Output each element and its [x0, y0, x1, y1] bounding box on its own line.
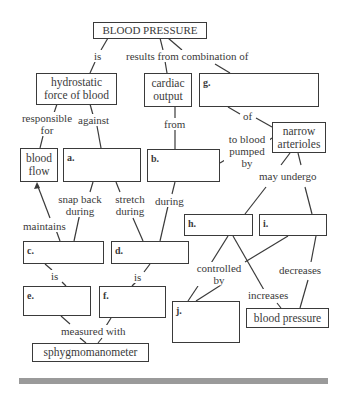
- link-label-against: against: [77, 114, 110, 126]
- concept-box-sphygmomanometer: sphygmomanometer: [32, 343, 149, 362]
- blank-box-g[interactable]: g.: [199, 73, 319, 107]
- box-letter-j: j.: [176, 304, 182, 317]
- link-label-snap-back-during: snap back during: [54, 193, 106, 217]
- link-label-measured-with: measured with: [60, 325, 126, 337]
- box-letter-c: c.: [27, 244, 34, 257]
- box-letter-i: i.: [263, 217, 268, 230]
- link-label-is-d: is: [133, 271, 142, 283]
- concept-box-cardiac-output: cardiac output: [144, 73, 192, 107]
- link-label-increases: increases: [247, 289, 289, 301]
- blank-box-b[interactable]: b.: [147, 149, 220, 182]
- blank-box-j[interactable]: j.: [172, 301, 240, 343]
- link-label-stretch-during: stretch during: [112, 193, 148, 217]
- box-letter-f: f.: [103, 289, 109, 302]
- box-letter-h: h.: [188, 217, 196, 230]
- box-letter-d: d.: [115, 244, 123, 257]
- link-label-of: of: [242, 110, 253, 122]
- blank-box-a[interactable]: a.: [63, 148, 141, 182]
- box-letter-e: e.: [27, 289, 34, 302]
- link-label-maintains: maintains: [22, 220, 67, 232]
- link-label-decreases: decreases: [278, 264, 322, 276]
- blank-box-e[interactable]: e.: [23, 286, 91, 316]
- bottom-divider-bar: [19, 378, 328, 384]
- link-label-is-c: is: [50, 270, 59, 282]
- link-label-is-top: is: [93, 50, 102, 62]
- link-label-from: from: [163, 118, 186, 130]
- concept-box-blood-pressure: blood pressure: [246, 308, 329, 328]
- blank-box-c[interactable]: c.: [23, 241, 104, 264]
- box-letter-a: a.: [67, 151, 75, 164]
- blank-box-i[interactable]: i.: [259, 214, 327, 236]
- box-letter-g: g.: [203, 76, 211, 89]
- blank-box-d[interactable]: d.: [111, 241, 189, 264]
- link-label-to-blood-pumped-by: to blood pumped by: [224, 133, 270, 169]
- link-label-results-from: results from combination of: [125, 50, 250, 62]
- link-label-controlled-by: controlled by: [193, 262, 245, 286]
- concept-box-hydrostatic-force: hydrostatic force of blood: [36, 73, 117, 105]
- box-letter-b: b.: [151, 152, 159, 165]
- link-label-may-undergo: may undergo: [258, 170, 318, 182]
- link-label-during: during: [154, 195, 185, 207]
- blank-box-h[interactable]: h.: [184, 214, 253, 236]
- concept-box-blood-flow: blood flow: [20, 148, 58, 182]
- blank-box-f[interactable]: f.: [99, 286, 166, 318]
- concept-box-blood-pressure-root: BLOOD PRESSURE: [93, 22, 207, 39]
- link-label-responsible-for: responsible for: [18, 112, 76, 136]
- concept-box-narrow-arterioles: narrow arterioles: [272, 122, 326, 153]
